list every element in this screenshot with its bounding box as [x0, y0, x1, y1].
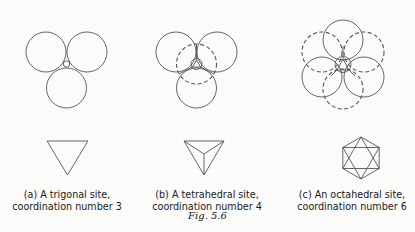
sphere-lower-bottom-right	[344, 57, 384, 97]
octahedral-site-triangle	[337, 59, 349, 70]
sphere-bottom	[177, 68, 217, 108]
trigonal-triangle	[47, 141, 88, 175]
figure-label: Fig. 5.6	[0, 210, 415, 221]
caption-line-1: (b) A tetrahedral site,	[145, 189, 269, 201]
sphere-lower-bottom-left	[302, 57, 342, 97]
tetrahedron-projection	[184, 141, 224, 175]
sphere-bottom	[47, 68, 87, 108]
tetrahedral-packing-diagram	[156, 32, 237, 108]
sphere-top-right	[197, 32, 237, 72]
trigonal-site-hole	[63, 61, 69, 67]
caption-line-1: (a) A trigonal site,	[8, 189, 126, 201]
tetra-edge	[179, 67, 193, 74]
sphere-top-right	[67, 32, 107, 72]
sphere-upper-top-right-dashed	[344, 32, 384, 72]
tetra-edge	[201, 67, 215, 74]
trigonal-packing-diagram	[26, 32, 107, 108]
sphere-upper-top-left-dashed	[302, 32, 342, 72]
octahedron-projection	[343, 137, 379, 179]
sphere-top-left	[26, 32, 66, 72]
octahedral-packing-diagram	[302, 20, 384, 109]
sphere-upper-bottom-dashed	[323, 69, 363, 109]
caption-line-1: (c) An octahedral site,	[292, 189, 412, 201]
sphere-top-left	[156, 32, 196, 72]
